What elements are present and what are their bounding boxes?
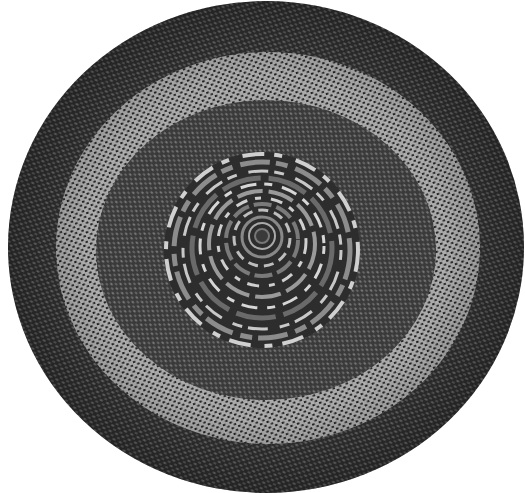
- braided-rug-photo: [0, 0, 525, 493]
- rug: [8, 1, 524, 493]
